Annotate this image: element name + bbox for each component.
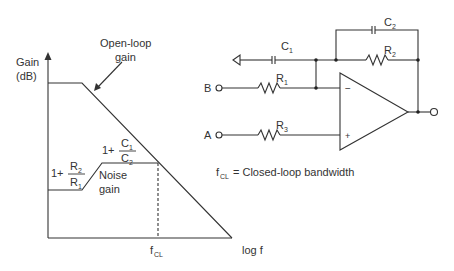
input-b-terminal: [216, 85, 222, 91]
inverting-input-sign: −: [345, 83, 351, 94]
label-r2: R2: [384, 44, 396, 58]
label-c1: C1: [281, 40, 293, 54]
svg-text:R: R: [70, 160, 78, 172]
svg-text:2: 2: [78, 167, 82, 174]
circuit-labels: C1 C2 R1 R2 R3 B A − +: [204, 16, 396, 141]
svg-text:2: 2: [392, 51, 396, 58]
output-terminal: [431, 109, 438, 116]
svg-text:R: R: [276, 119, 284, 131]
fcl-tick-label: f CL: [150, 244, 163, 258]
open-loop-pointer: [98, 62, 122, 87]
ground-triangle-icon: [233, 55, 240, 65]
resistor-r1: [258, 83, 280, 93]
resistor-r2: [366, 55, 388, 65]
low-frequency-gain-expression: 1+ R 2 R 1: [51, 160, 85, 190]
svg-text:R: R: [70, 176, 78, 188]
gain-graph: [45, 52, 233, 238]
graph-labels: Gain (dB) Open-loop gain Noise gain 1+ R…: [16, 37, 264, 258]
svg-text:C: C: [121, 137, 129, 149]
label-r3: R3: [276, 119, 288, 133]
input-a-terminal: [216, 132, 222, 138]
svg-text:C: C: [121, 152, 129, 164]
svg-text:2: 2: [392, 23, 396, 30]
svg-text:CL: CL: [154, 251, 163, 258]
y-axis-label-unit: (dB): [16, 70, 37, 82]
label-r1: R1: [276, 72, 288, 86]
noninverting-input-sign: +: [345, 131, 350, 141]
svg-text:3: 3: [284, 126, 288, 133]
svg-text:C: C: [281, 40, 289, 52]
label-input-a: A: [204, 129, 212, 141]
svg-text:R: R: [276, 72, 284, 84]
svg-text:1: 1: [289, 47, 293, 54]
circuit-junctions: [314, 58, 420, 114]
fcl-legend: f CL = Closed-loop bandwidth: [216, 166, 354, 180]
svg-text:C: C: [384, 16, 392, 28]
noise-gain-label-2: gain: [99, 183, 120, 195]
y-axis-arrow-icon: [45, 52, 52, 60]
x-axis-label: log f: [242, 244, 264, 256]
y-axis-label: Gain: [16, 56, 39, 68]
svg-text:= Closed-loop bandwidth: = Closed-loop bandwidth: [233, 166, 354, 178]
diagram-canvas: Gain (dB) Open-loop gain Noise gain 1+ R…: [0, 0, 454, 271]
svg-text:R: R: [384, 44, 392, 56]
svg-text:1+: 1+: [102, 144, 115, 156]
open-loop-label: Open-loop: [100, 37, 151, 49]
op-amp-circuit: [216, 26, 438, 150]
label-c2: C2: [384, 16, 396, 30]
svg-text:1: 1: [284, 79, 288, 86]
label-input-b: B: [204, 82, 211, 94]
svg-text:1+: 1+: [51, 167, 64, 179]
noise-gain-label: Noise: [99, 169, 127, 181]
svg-text:1: 1: [78, 183, 82, 190]
high-frequency-gain-expression: 1+ C 1 C 2: [102, 137, 136, 166]
open-loop-label-2: gain: [115, 51, 136, 63]
resistor-r3: [258, 130, 280, 140]
svg-text:CL: CL: [220, 173, 229, 180]
svg-text:1: 1: [129, 144, 133, 151]
svg-text:2: 2: [129, 159, 133, 166]
